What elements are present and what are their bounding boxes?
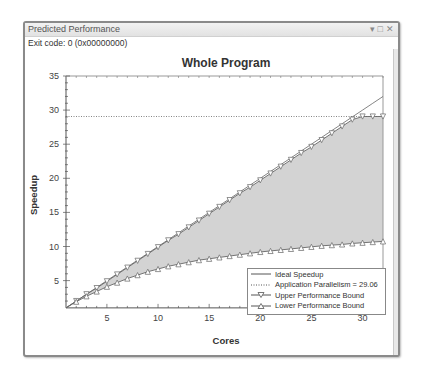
legend-item-lower: Lower Performance Bound bbox=[248, 301, 385, 312]
legend: Ideal Speedup Application Parallelism = … bbox=[247, 268, 386, 315]
legend-item-upper: Upper Performance Bound bbox=[248, 290, 385, 301]
svg-text:25: 25 bbox=[49, 139, 59, 149]
svg-text:10: 10 bbox=[49, 242, 59, 252]
y-axis-label: Speedup bbox=[28, 175, 39, 215]
svg-text:5: 5 bbox=[54, 276, 59, 286]
svg-text:5: 5 bbox=[104, 313, 109, 323]
x-axis-label: Cores bbox=[213, 335, 240, 346]
svg-text:30: 30 bbox=[49, 105, 59, 115]
legend-item-parallelism: Application Parallelism = 29.06 bbox=[248, 280, 385, 291]
svg-text:35: 35 bbox=[49, 71, 59, 81]
svg-text:15: 15 bbox=[49, 207, 59, 217]
svg-text:20: 20 bbox=[49, 173, 59, 183]
speedup-chart: Whole Program Cores Speedup 510152025303… bbox=[0, 0, 422, 376]
chart-title: Whole Program bbox=[182, 56, 271, 70]
svg-text:10: 10 bbox=[153, 313, 163, 323]
svg-text:15: 15 bbox=[204, 313, 214, 323]
legend-item-ideal: Ideal Speedup bbox=[248, 269, 385, 280]
